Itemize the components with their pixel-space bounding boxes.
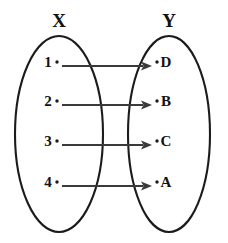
node-label-1: 1 (44, 54, 52, 70)
node-X-3: 3 (44, 133, 58, 149)
node-label-C: C (161, 133, 172, 149)
node-label-3: 3 (44, 133, 52, 149)
node-X-2: 2 (44, 93, 58, 109)
node-dot (155, 180, 158, 183)
node-dot (55, 139, 58, 142)
set-y-nodes: DBCA (155, 54, 171, 190)
arrow-4-to-A (62, 181, 152, 190)
node-dot (55, 180, 58, 183)
node-dot (155, 60, 158, 63)
node-label-D: D (161, 54, 172, 70)
arrow-group (62, 61, 152, 190)
node-X-4: 4 (44, 174, 58, 190)
set-y-title: Y (162, 10, 176, 31)
node-dot (155, 139, 158, 142)
node-Y-C: C (155, 133, 171, 149)
arrow-3-to-C (62, 140, 152, 149)
set-x-nodes: 1234 (44, 54, 58, 190)
node-Y-D: D (155, 54, 171, 70)
mapping-diagram-canvas: X Y 1234 DBCA (0, 0, 228, 243)
set-x-title: X (52, 10, 66, 31)
node-X-1: 1 (44, 54, 58, 70)
node-label-4: 4 (44, 174, 52, 190)
node-Y-A: A (155, 174, 171, 190)
node-dot (55, 60, 58, 63)
node-label-B: B (161, 93, 171, 109)
node-dot (155, 99, 158, 102)
node-label-2: 2 (44, 93, 52, 109)
node-dot (55, 99, 58, 102)
node-label-A: A (161, 174, 172, 190)
arrow-2-to-B (62, 100, 152, 109)
mapping-diagram-svg: X Y 1234 DBCA (0, 0, 228, 243)
node-Y-B: B (155, 93, 171, 109)
